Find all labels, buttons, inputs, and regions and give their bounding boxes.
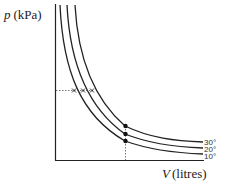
isotherm-diagram: p(kPa) V(litres) 30° 20° 10° xyxy=(0,0,229,188)
x-axis-label: V(litres) xyxy=(162,166,207,181)
isotherm-10 xyxy=(60,5,203,154)
dot-markers xyxy=(123,124,127,143)
isotherm-30 xyxy=(75,5,203,142)
y-axis-label: p(kPa) xyxy=(3,7,42,22)
isotherm-20 xyxy=(67,5,203,148)
label-10: 10° xyxy=(204,152,216,161)
